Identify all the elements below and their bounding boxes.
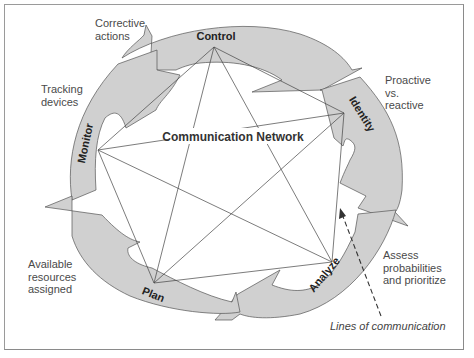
- annotation-assess-prioritize: Assess probabilities and prioritize: [383, 249, 446, 287]
- annotation-lines-of-communication: Lines of communication: [330, 320, 446, 333]
- stage-label-control: Control: [196, 30, 235, 42]
- annotation-proactive-reactive: Proactive vs. reactive: [385, 74, 431, 112]
- annotation-tracking-devices: Tracking devices: [41, 83, 83, 108]
- pointer-arrowhead-icon: [339, 208, 346, 219]
- center-label: Communication Network: [162, 130, 304, 144]
- annotation-corrective-actions: Corrective actions: [95, 17, 145, 42]
- link-analyze-plan: [154, 262, 332, 283]
- annotation-available-resources: Available resources assigned: [28, 258, 76, 296]
- cycle-diagram: Communication Network Control Identity A…: [0, 0, 474, 358]
